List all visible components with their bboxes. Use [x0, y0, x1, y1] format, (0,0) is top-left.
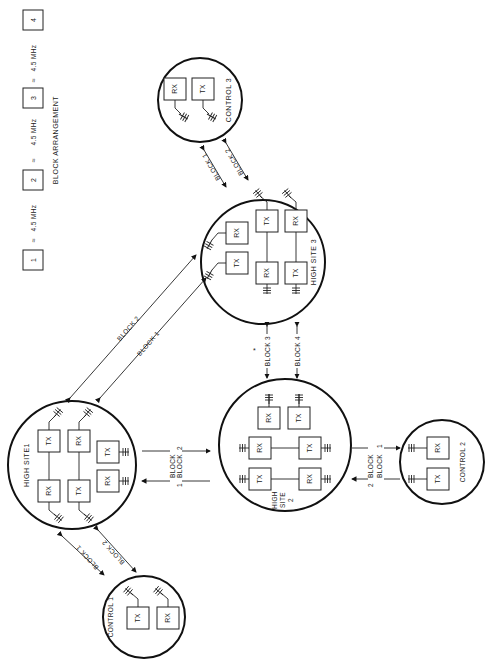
- svg-text:BLOCK 1: BLOCK 1: [200, 152, 221, 182]
- legend-spacing-1: 4.5 MHz: [30, 204, 37, 231]
- svg-text:RX: RX: [265, 413, 272, 423]
- approx-symbol: ≈: [30, 158, 37, 162]
- approx-symbol: ≈: [30, 78, 37, 82]
- radio-network-diagram: 4 4.5 MHz ≈ 3 4.5 MHz ≈ 2 4.5 MHz ≈ 1 BL…: [0, 0, 495, 665]
- link-control3-highsite3: BLOCK 1 BLOCK 2: [200, 143, 248, 187]
- svg-text:TX: TX: [292, 268, 299, 277]
- svg-text:RX: RX: [171, 84, 178, 94]
- svg-text:BLOCK 2: BLOCK 2: [223, 147, 244, 177]
- svg-text:BLOCK 2: BLOCK 2: [116, 315, 141, 342]
- legend-block-2: 2: [23, 170, 43, 190]
- svg-text:BLOCK 4: BLOCK 4: [294, 336, 301, 366]
- svg-text:2: 2: [367, 483, 374, 487]
- svg-text:BLOCK: BLOCK: [376, 454, 383, 478]
- svg-text:RX: RX: [104, 476, 111, 486]
- svg-text:TX: TX: [434, 474, 441, 483]
- legend-block-4: 4: [23, 10, 43, 30]
- link-highsite2-control2: BLOCK BLOCK 1 2: [352, 440, 400, 487]
- svg-text:1: 1: [30, 258, 37, 262]
- legend-spacing-2: 4.5 MHz: [30, 118, 37, 145]
- svg-text:BLOCK 1: BLOCK 1: [74, 544, 99, 571]
- svg-text:RX: RX: [292, 216, 299, 226]
- svg-text:BLOCK: BLOCK: [176, 454, 183, 478]
- link-control1-highsite1: BLOCK 1 BLOCK 2: [62, 530, 136, 575]
- control-2-site: RX TX CONTROL 2: [400, 420, 484, 504]
- svg-text:TX: TX: [104, 447, 111, 456]
- high-site-2-label-2: SITE: [279, 492, 286, 508]
- legend-block-3: 3: [23, 88, 43, 108]
- svg-text:BLOCK 3: BLOCK 3: [264, 336, 271, 366]
- high-site-2-label-3: 2: [287, 498, 294, 502]
- high-site-1-label: HIGH SITE1: [23, 443, 30, 487]
- control-1-site: CONTROL 1 TX RX: [103, 576, 185, 658]
- svg-text:RX: RX: [75, 436, 82, 446]
- control-1-label: CONTROL 1: [107, 597, 114, 638]
- link-highsite3-highsite2: BLOCK 3 BLOCK 4 *: [253, 326, 302, 378]
- svg-text:RX: RX: [233, 228, 240, 238]
- svg-text:RX: RX: [263, 268, 270, 278]
- svg-text:TX: TX: [306, 443, 313, 452]
- svg-text:RX: RX: [434, 443, 441, 453]
- svg-text:RX: RX: [45, 486, 52, 496]
- high-site-3-label: HIGH SITE 3: [310, 239, 317, 285]
- high-site-2: RX TX RX TX TX RX HIGH SITE 2: [219, 379, 351, 511]
- control-3-site: RX TX CONTROL 3: [158, 58, 242, 142]
- svg-text:2: 2: [176, 446, 183, 450]
- svg-text:TX: TX: [263, 216, 270, 225]
- block-arrangement-legend: 4 4.5 MHz ≈ 3 4.5 MHz ≈ 2 4.5 MHz ≈ 1 BL…: [23, 10, 59, 270]
- high-site-1: HIGH SITE1 TX RX RX TX TX RX: [8, 401, 136, 529]
- link-highsite1-highsite2: BLOCK BLOCK 1 2: [142, 443, 210, 489]
- svg-text:TX: TX: [233, 258, 240, 267]
- approx-symbol: ≈: [30, 238, 37, 242]
- legend-spacing-3: 4.5 MHz: [30, 44, 37, 71]
- svg-text:3: 3: [30, 96, 37, 100]
- svg-text:RX: RX: [306, 474, 313, 484]
- high-site-2-label-1: HIGH: [271, 491, 278, 509]
- svg-text:TX: TX: [45, 436, 52, 445]
- svg-text:TX: TX: [256, 474, 263, 483]
- svg-text:4: 4: [30, 18, 37, 22]
- svg-text:RX: RX: [164, 613, 171, 623]
- svg-text:BLOCK: BLOCK: [169, 454, 176, 478]
- svg-text:RX: RX: [256, 443, 263, 453]
- asterisk-note: *: [253, 347, 256, 354]
- link-highsite1-highsite3: BLOCK 2 BLOCK 1: [70, 255, 206, 398]
- svg-text:TX: TX: [134, 613, 141, 622]
- svg-text:1: 1: [376, 444, 383, 448]
- legend-title: BLOCK ARRANGEMENT: [52, 96, 59, 184]
- control-2-label: CONTROL 2: [459, 442, 466, 483]
- svg-text:2: 2: [30, 178, 37, 182]
- svg-text:1: 1: [176, 483, 183, 487]
- legend-block-1: 1: [23, 250, 43, 270]
- svg-text:TX: TX: [75, 486, 82, 495]
- high-site-3: RX TX TX RX RX TX HIGH SITE 3: [201, 188, 325, 324]
- svg-text:BLOCK 2: BLOCK 2: [100, 539, 125, 566]
- svg-text:BLOCK 1: BLOCK 1: [136, 330, 161, 357]
- svg-text:TX: TX: [199, 84, 206, 93]
- control-3-label: CONTROL 3: [225, 78, 232, 122]
- svg-text:TX: TX: [295, 413, 302, 422]
- svg-text:BLOCK: BLOCK: [367, 454, 374, 478]
